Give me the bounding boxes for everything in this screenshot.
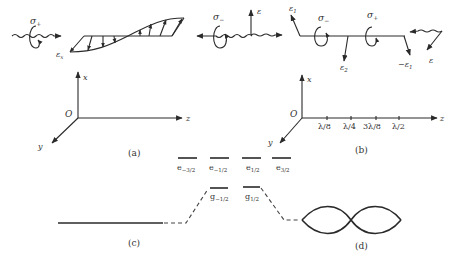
panel-b: ε ε1 σ− ε2 σ+ −ε1 ε [251, 4, 445, 155]
tick-label: λ/4 [343, 122, 356, 131]
linear-polarization-ribbon: εx [56, 18, 184, 60]
sigma-minus-label-b: σ− [318, 13, 329, 24]
panel-b-caption: (b) [355, 145, 368, 155]
z-axis-label: z [185, 114, 191, 123]
sigma-minus-label: σ− [213, 12, 224, 23]
x-axis-label: x [307, 75, 312, 84]
minus-e1-label: −ε1 [398, 60, 413, 70]
tick-label: λ/8 [318, 122, 331, 131]
y-axis-label: y [267, 138, 273, 147]
panel-d: (d) [302, 207, 401, 252]
light-shift-curve-2 [302, 207, 401, 234]
e1-label: ε1 [289, 4, 297, 14]
field-right: ε [410, 30, 442, 65]
correlation-line-left [164, 189, 208, 223]
x-axis-label: x [83, 73, 88, 82]
tick-label: 3λ/8 [363, 122, 381, 131]
level-label: g1/2 [245, 192, 259, 202]
z-axis-label: z [439, 114, 445, 123]
panel-a-caption: (a) [128, 148, 140, 158]
level-label: e3/2 [276, 163, 290, 173]
sigma-minus-beam-right: σ− [197, 12, 252, 48]
panel-c-caption: (c) [128, 238, 140, 248]
level-label: e−3/2 [177, 163, 195, 173]
optical-molasses-diagram: σ+ εx σ− x z [0, 0, 454, 257]
field-left-label: ε [257, 7, 261, 16]
sigma-plus-label-b: σ+ [367, 10, 378, 21]
field-right-label: ε [429, 56, 433, 65]
y-axis-label: y [37, 142, 43, 151]
origin-label: O [290, 109, 298, 119]
level-label: e1/2 [246, 163, 260, 173]
e2-arrow [344, 36, 348, 61]
axes-b: λ/8 λ/4 3λ/8 λ/2 x z y O [267, 75, 445, 147]
panel-d-caption: (d) [355, 241, 368, 251]
field-left: ε [251, 7, 282, 36]
correlation-line-right [261, 188, 300, 220]
level-label: g−1/2 [210, 192, 229, 202]
e1-arrow [291, 15, 300, 36]
minus-e1-arrow [404, 36, 410, 55]
sigma-plus-label: σ+ [30, 16, 41, 27]
e2-label: ε2 [340, 63, 348, 73]
field-x-label: εx [56, 50, 64, 60]
level-label: e−1/2 [209, 163, 227, 173]
panel-a: σ+ εx σ− x z [12, 12, 252, 158]
origin-label: O [65, 109, 73, 119]
tick-label: λ/2 [392, 122, 405, 131]
axes-a: x z y O [37, 72, 191, 151]
panel-c: e−3/2 e−1/2 e1/2 e3/2 g−1/2 g1/2 (c) [58, 158, 300, 248]
sigma-plus-beam-left: σ+ [12, 16, 61, 48]
